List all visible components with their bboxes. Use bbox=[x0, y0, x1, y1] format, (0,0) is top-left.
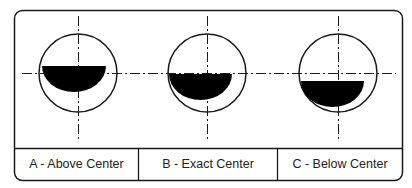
label-below-center: C - Below Center bbox=[278, 150, 402, 178]
semicircle-b bbox=[169, 74, 232, 100]
panel-a-figure bbox=[39, 16, 117, 140]
panel-c-figure bbox=[299, 16, 377, 140]
label-exact-center: B - Exact Center bbox=[139, 150, 277, 178]
semicircle-a bbox=[42, 66, 106, 92]
semicircle-c bbox=[301, 81, 364, 107]
label-above-center: A - Above Center bbox=[15, 150, 138, 178]
panel-b-figure bbox=[168, 16, 246, 140]
